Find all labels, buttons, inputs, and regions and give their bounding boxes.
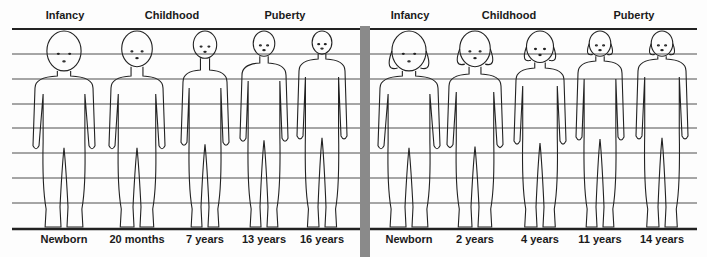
stage-label: Childhood xyxy=(145,9,199,21)
figure-girl xyxy=(378,31,440,227)
figure-boy xyxy=(240,31,288,227)
figure-girl xyxy=(576,31,624,227)
figure-boy xyxy=(33,31,95,227)
age-label: 7 years xyxy=(186,233,224,245)
age-label: 11 years xyxy=(578,233,621,245)
figure-boy xyxy=(297,31,347,227)
figure-boy xyxy=(109,31,165,227)
figure-girl xyxy=(514,31,566,227)
figure-boy xyxy=(181,31,229,227)
age-label: Newborn xyxy=(385,233,432,245)
age-label: 13 years xyxy=(242,233,286,245)
figure-girl xyxy=(447,31,503,227)
panel-divider xyxy=(360,26,370,257)
stage-label: Childhood xyxy=(482,9,536,21)
age-label: 14 years xyxy=(640,233,684,245)
age-label: Newborn xyxy=(40,233,87,245)
age-label: 20 months xyxy=(109,233,164,245)
body-proportion-diagram: InfancyChildhoodPubertyNewborn20 months7… xyxy=(0,0,707,257)
stage-label: Puberty xyxy=(614,9,655,21)
figure-girl xyxy=(636,31,688,227)
stage-label: Puberty xyxy=(265,9,306,21)
stage-label: Infancy xyxy=(46,9,85,21)
stage-label: Infancy xyxy=(391,9,430,21)
age-label: 4 years xyxy=(521,233,559,245)
age-label: 16 years xyxy=(300,233,344,245)
age-label: 2 years xyxy=(456,233,494,245)
diagram-canvas xyxy=(0,0,707,257)
